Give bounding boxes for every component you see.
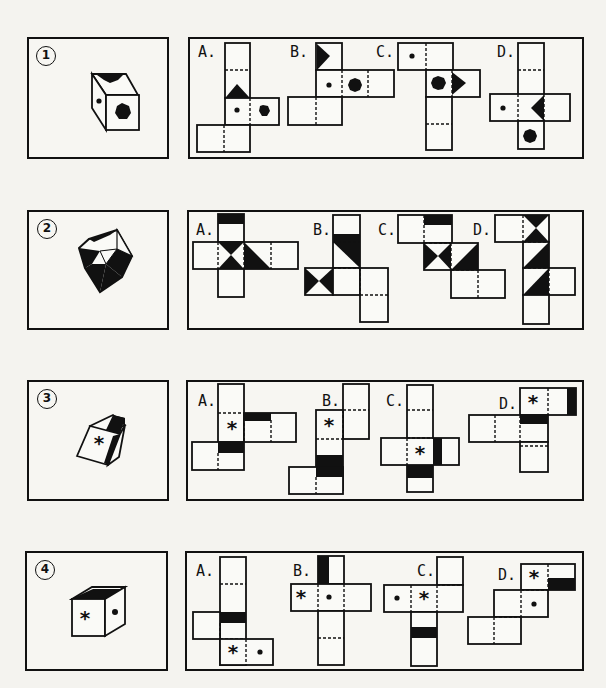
- asterisk-icon: *: [296, 585, 307, 609]
- dot-icon: [234, 107, 239, 112]
- dot-icon: [326, 82, 331, 87]
- asterisk-icon: *: [227, 416, 238, 440]
- net-face-part: [567, 388, 576, 415]
- dot-icon: [257, 649, 262, 654]
- asterisk-icon: *: [419, 586, 430, 610]
- net-face-part: [411, 627, 437, 638]
- puzzle-2-option-b-net[interactable]: [305, 215, 388, 322]
- net-face-part: [433, 438, 442, 465]
- puzzle-drawings: * * * *: [0, 0, 606, 688]
- net-face-part: [343, 384, 369, 439]
- asterisk-icon: *: [324, 413, 335, 437]
- puzzle-1-option-b-net[interactable]: [288, 43, 394, 125]
- net-face-part: [348, 78, 362, 92]
- dot-icon: [409, 53, 414, 58]
- net-face-part: [288, 97, 342, 125]
- asterisk-icon: *: [528, 390, 539, 414]
- puzzle-2-option-c-net[interactable]: [398, 215, 505, 298]
- puzzle-1-option-c-net[interactable]: [398, 43, 480, 150]
- puzzle-4-option-b-net[interactable]: *: [291, 556, 371, 665]
- asterisk-icon: *: [228, 640, 239, 664]
- asterisk-icon: *: [415, 441, 426, 465]
- dot-icon: [326, 594, 331, 599]
- puzzle-2-cube: [79, 230, 132, 292]
- net-face-part: [523, 129, 537, 143]
- puzzle-4-option-d-net[interactable]: *: [468, 564, 575, 644]
- net-face-part: [548, 578, 575, 590]
- net-face-part: [411, 612, 437, 666]
- puzzle-1-option-a-net[interactable]: [197, 43, 279, 152]
- net-face-part: [316, 467, 343, 477]
- net-face-part: [218, 442, 244, 453]
- puzzle-3-option-b-net[interactable]: *: [289, 384, 369, 494]
- puzzle-4-option-c-net[interactable]: *: [384, 557, 463, 666]
- net-face-part: [220, 612, 246, 623]
- net-face-part: [218, 269, 244, 297]
- puzzle-3-cube: *: [77, 415, 125, 465]
- net-face-part: [244, 413, 271, 421]
- puzzle-4-option-a-net[interactable]: *: [193, 557, 273, 665]
- dot-icon: [394, 595, 399, 600]
- puzzle-3-option-a-net[interactable]: *: [192, 384, 296, 470]
- puzzle-3-option-c-net[interactable]: *: [381, 385, 459, 492]
- puzzle-1-cube: [92, 74, 139, 130]
- dot-icon: [112, 609, 118, 615]
- net-face-part: [318, 556, 329, 584]
- net-face-part: [407, 465, 433, 478]
- net-face-part: [333, 234, 360, 242]
- net-face-part: [333, 268, 360, 295]
- dot-icon: [531, 601, 536, 606]
- net-face-part: [520, 442, 548, 472]
- puzzle-3-option-d-net[interactable]: *: [469, 388, 576, 472]
- dot-icon: [500, 105, 505, 110]
- dot-icon: [96, 98, 101, 103]
- asterisk-icon: *: [529, 565, 540, 589]
- asterisk-icon: *: [80, 606, 91, 630]
- puzzle-4-cube: *: [72, 587, 125, 636]
- net-face-part: [360, 268, 388, 322]
- net-face-part: [520, 415, 548, 424]
- puzzle-2-option-a-net[interactable]: [193, 214, 298, 297]
- net-face-part: [193, 612, 220, 639]
- puzzle-2-option-d-net[interactable]: [495, 215, 575, 324]
- asterisk-icon: *: [94, 431, 105, 455]
- net-face-part: [523, 295, 549, 324]
- net-face-part: [451, 270, 505, 298]
- net-face-part: [225, 98, 279, 125]
- net-face-part: [437, 557, 463, 585]
- net-face-part: [218, 214, 244, 224]
- puzzle-1-option-d-net[interactable]: [490, 43, 570, 149]
- net-face-part: [424, 215, 452, 225]
